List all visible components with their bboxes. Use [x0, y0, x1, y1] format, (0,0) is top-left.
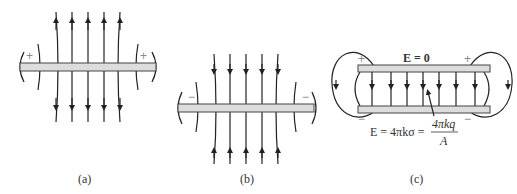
- charged-plate-b: [178, 104, 314, 112]
- inside-field-equation: E = 4πkσ =: [370, 125, 425, 139]
- minus-sign: −: [358, 112, 365, 126]
- fringe-line: [355, 72, 360, 106]
- panel-c: + + − − E = 0 E = 4πkσ = 4πkq A (c): [332, 51, 512, 186]
- minus-sign: −: [464, 112, 471, 126]
- figure: + + (a) −: [0, 0, 517, 194]
- plus-sign: +: [26, 49, 33, 63]
- caption-b: (b): [240, 172, 254, 186]
- plus-sign: +: [358, 52, 365, 66]
- caption-c: (c): [410, 172, 423, 186]
- minus-sign: −: [302, 90, 309, 104]
- charged-plate-a: [20, 63, 156, 71]
- fraction-denominator: A: [439, 134, 448, 148]
- panel-b: − − (b): [178, 54, 316, 186]
- plus-sign: +: [464, 52, 471, 66]
- caption-a: (a): [78, 172, 91, 186]
- fraction-numerator: 4πkq: [432, 117, 455, 131]
- plus-sign: +: [140, 49, 147, 63]
- top-plate: [358, 65, 490, 72]
- panel-a: + + (a): [20, 12, 156, 186]
- minus-sign: −: [188, 90, 195, 104]
- outside-field-label: E = 0: [403, 51, 430, 65]
- fringe-line: [484, 72, 489, 106]
